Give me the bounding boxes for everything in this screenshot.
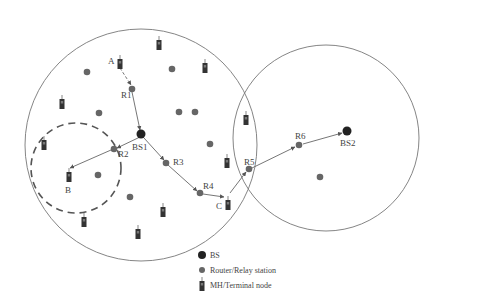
terminal-node (203, 59, 208, 73)
terminal-icon (161, 207, 166, 217)
relay-station-icon (127, 194, 134, 201)
terminal-icon (82, 217, 87, 227)
terminal-icon (225, 158, 230, 168)
legend-label: MH/Terminal node (210, 281, 272, 290)
terminal-icon (118, 59, 123, 69)
terminal-icon (226, 200, 231, 210)
node-label: R2 (118, 149, 129, 159)
terminal-icon (200, 281, 205, 291)
legend-label: BS (210, 251, 220, 260)
terminal-icon (157, 40, 162, 50)
node-label: BS1 (132, 142, 148, 152)
link-arrow (168, 165, 197, 191)
node-label: A (108, 56, 115, 66)
legend-terminal-icon (200, 277, 205, 291)
legend-bs-icon (198, 251, 206, 259)
relay-coverage-dashed-circle (31, 123, 121, 213)
link-arrow (203, 194, 224, 197)
link-arrow (132, 92, 140, 130)
nodes: BS1BS2R1R2R3R4R5R6ABC (42, 36, 356, 239)
relay-station-icon (111, 146, 118, 153)
legend-label: Router/Relay station (210, 266, 276, 275)
relay-station-icon (169, 66, 176, 73)
node-label: C (216, 201, 222, 211)
node-label: B (65, 185, 71, 195)
terminal-icon (244, 115, 249, 125)
terminal-icon (60, 99, 65, 109)
terminal-node (67, 168, 72, 182)
link-arrow (120, 68, 131, 85)
relay-station-icon (296, 142, 303, 149)
terminal-icon (67, 172, 72, 182)
terminal-node (60, 95, 65, 109)
base-station-icon (137, 130, 146, 139)
node-label: R3 (173, 157, 184, 167)
node-label: R6 (295, 131, 306, 141)
relay-station-icon (192, 109, 199, 116)
terminal-node (244, 111, 249, 125)
base-station-icon (343, 127, 352, 136)
relay-station-icon (84, 69, 91, 76)
node-label: R5 (244, 157, 255, 167)
legend-relay-icon (199, 267, 205, 273)
network-diagram: BS1BS2R1R2R3R4R5R6ABC BSRouter/Relay sta… (0, 0, 479, 307)
link-arrow (70, 150, 111, 168)
node-label: R1 (121, 90, 132, 100)
terminal-node (82, 213, 87, 227)
relay-station-icon (163, 160, 170, 167)
terminal-icon (136, 229, 141, 239)
terminal-node (136, 225, 141, 239)
legend: BSRouter/Relay stationMH/Terminal node (198, 251, 276, 291)
link-arrow (303, 133, 342, 144)
cell-bs2-circle (233, 45, 419, 231)
node-label: R4 (203, 181, 214, 191)
terminal-node (225, 154, 230, 168)
terminal-icon (203, 63, 208, 73)
terminal-node (157, 36, 162, 50)
relay-station-icon (207, 141, 214, 148)
terminal-node (118, 55, 123, 69)
link-arrow (230, 172, 246, 193)
link-arrow (252, 147, 295, 168)
node-label: BS2 (340, 138, 356, 148)
terminal-node (226, 196, 231, 210)
relay-station-icon (317, 174, 324, 181)
terminal-icon (42, 140, 47, 150)
terminal-node (161, 203, 166, 217)
relay-station-icon (95, 172, 102, 179)
relay-station-icon (96, 110, 103, 117)
relay-station-icon (176, 109, 183, 116)
